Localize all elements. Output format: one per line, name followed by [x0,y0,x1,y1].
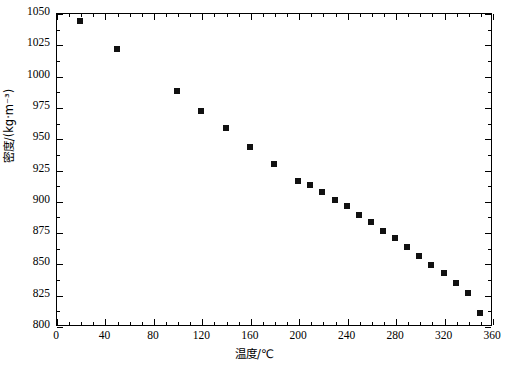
x-axis-minor-tick [469,322,470,325]
y-axis-major-tick [57,139,63,140]
x-axis-title: 温度/℃ [0,345,509,361]
x-axis-minor-tick [360,322,361,325]
x-axis-tick-label: 280 [375,329,415,341]
data-point [332,197,338,203]
y-axis-major-tick [57,77,63,78]
x-axis-minor-tick [372,322,373,325]
x-axis-tick-label: 320 [424,329,464,341]
data-point [428,262,434,268]
x-axis-tick-label: 240 [327,329,367,341]
y-axis-right-tick [485,45,491,46]
x-axis-minor-tick [420,322,421,325]
y-axis-minor-tick [57,311,60,312]
x-axis-minor-tick [239,322,240,325]
y-axis-minor-tick [57,30,60,31]
x-axis-minor-tick [457,322,458,325]
x-axis-minor-tick [287,322,288,325]
y-axis-right-tick [488,280,491,281]
y-axis-minor-tick [57,92,60,93]
x-axis-major-tick [445,319,446,325]
x-axis-top-tick [336,14,337,17]
data-point [307,182,313,188]
x-axis-top-tick [299,14,300,20]
x-axis-minor-tick [323,322,324,325]
x-axis-top-tick [481,14,482,17]
y-axis-right-tick [485,14,491,15]
x-axis-top-tick [202,14,203,20]
x-axis-minor-tick [166,322,167,325]
data-point [295,178,301,184]
y-axis-right-tick [485,202,491,203]
y-axis-minor-tick [57,186,60,187]
data-point [380,228,386,234]
y-axis-right-tick [485,171,491,172]
y-axis-minor-tick [57,61,60,62]
x-axis-major-tick [57,319,58,325]
x-axis-minor-tick [190,322,191,325]
y-axis-tick-label: 875 [6,224,50,236]
y-axis-major-tick [57,45,63,46]
x-axis-major-tick [154,319,155,325]
x-axis-top-tick [178,14,179,17]
x-axis-top-tick [493,14,494,20]
y-axis-tick-label: 800 [6,318,50,330]
y-axis-right-tick [488,249,491,250]
x-axis-minor-tick [214,322,215,325]
x-axis-top-tick [469,14,470,17]
x-axis-top-tick [396,14,397,20]
x-axis-top-tick [251,14,252,20]
x-axis-minor-tick [69,322,70,325]
y-axis-major-tick [57,202,63,203]
x-axis-top-tick [323,14,324,17]
y-axis-major-tick [57,233,63,234]
x-axis-major-tick [251,319,252,325]
y-axis-title: 密度/(kg·m⁻³) [0,66,16,186]
data-point [404,244,410,250]
y-axis-minor-tick [57,217,60,218]
y-axis-right-tick [485,77,491,78]
y-axis-tick-label: 1050 [6,5,50,17]
y-axis-right-tick [488,311,491,312]
y-axis-right-tick [488,155,491,156]
y-axis-tick-label: 900 [6,193,50,205]
x-axis-top-tick [457,14,458,17]
data-point [223,125,229,131]
x-axis-minor-tick [432,322,433,325]
data-point [453,280,459,286]
y-axis-major-tick [57,264,63,265]
x-axis-major-tick [396,319,397,325]
y-axis-right-tick [488,61,491,62]
x-axis-top-tick [227,14,228,17]
x-axis-major-tick [105,319,106,325]
x-axis-top-tick [311,14,312,17]
data-point [356,212,362,218]
y-axis-right-tick [485,327,491,328]
y-axis-right-tick [485,264,491,265]
x-axis-tick-label: 160 [230,329,270,341]
data-point [344,203,350,209]
x-axis-top-tick [287,14,288,17]
x-axis-minor-tick [93,322,94,325]
x-axis-minor-tick [227,322,228,325]
y-axis-minor-tick [57,249,60,250]
x-axis-top-tick [263,14,264,17]
x-axis-top-tick [214,14,215,17]
y-axis-major-tick [57,296,63,297]
data-point [174,88,180,94]
data-point [198,108,204,114]
y-axis-tick-label: 850 [6,255,50,267]
y-axis-right-tick [485,139,491,140]
x-axis-top-tick [130,14,131,17]
x-axis-tick-label: 200 [278,329,318,341]
data-point [441,270,447,276]
x-axis-top-tick [408,14,409,17]
x-axis-major-tick [202,319,203,325]
y-axis-major-tick [57,171,63,172]
y-axis-right-tick [485,296,491,297]
x-axis-minor-tick [384,322,385,325]
y-axis-right-tick [485,108,491,109]
x-axis-minor-tick [118,322,119,325]
y-axis-right-tick [488,124,491,125]
data-point [465,290,471,296]
x-axis-minor-tick [263,322,264,325]
